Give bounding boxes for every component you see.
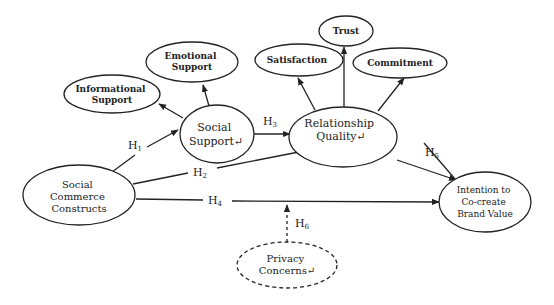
research-model-diagram: Informational Support Emotional Support … [0, 0, 554, 305]
label-satisfaction: Satisfaction [267, 55, 328, 65]
label-emotional-support: Emotional Support [165, 51, 220, 72]
label-intention: Intention to Co-create Brand Value [457, 185, 514, 219]
edge-h2-segment-a [133, 173, 188, 184]
node-informational-support [64, 75, 160, 113]
label-trust: Trust [333, 26, 360, 36]
edge-relationship-quality-to-satisfaction [298, 78, 315, 110]
label-h5: H5 [425, 146, 439, 160]
label-h2: H2 [193, 166, 207, 180]
edge-h1-segment-b [147, 130, 178, 147]
edge-h4-segment-b [232, 201, 439, 202]
diagram-svg: Informational Support Emotional Support … [0, 0, 554, 305]
label-privacy-concerns: Privacy Concerns↵ [259, 253, 315, 276]
label-h6: H6 [295, 217, 310, 231]
edge-social-support-to-emotional [203, 85, 209, 106]
label-h1: H1 [128, 139, 142, 153]
label-h3: H3 [263, 115, 277, 129]
node-social-support [180, 105, 254, 163]
edge-h1-segment-a [112, 155, 135, 172]
edge-relationship-quality-to-commitment [378, 78, 404, 111]
edge-social-support-to-informational [159, 104, 183, 118]
label-h4: H4 [208, 194, 223, 208]
edge-h4-segment-a [136, 199, 203, 200]
label-commitment: Commitment [367, 58, 434, 68]
